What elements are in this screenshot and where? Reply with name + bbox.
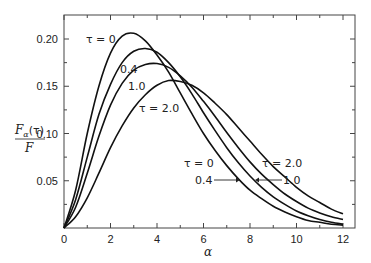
svg-text:8: 8	[247, 233, 253, 245]
y-axis-label: Fα(τ) F	[14, 123, 45, 155]
curves	[64, 33, 343, 228]
svg-text:0.15: 0.15	[37, 80, 58, 92]
annotation-04-right: 0.4	[195, 174, 213, 187]
line-chart: 0246810120.050.100.150.20 Fα(τ) F α τ = …	[0, 0, 371, 263]
annotation-tau0-left: τ = 0	[86, 33, 116, 46]
svg-text:Fα(τ): Fα(τ)	[14, 123, 44, 139]
svg-text:0.20: 0.20	[37, 33, 58, 45]
svg-text:6: 6	[200, 233, 206, 245]
annotation-tau2-left: τ = 2.0	[139, 102, 179, 115]
svg-text:10: 10	[290, 233, 302, 245]
annotation-arrows	[214, 178, 282, 183]
annotation-tau2-right: τ = 2.0	[262, 157, 302, 170]
x-axis-label: α	[204, 245, 212, 259]
svg-text:F: F	[24, 141, 34, 155]
svg-text:4: 4	[154, 233, 160, 245]
annotation-tau0-right: τ = 0	[184, 157, 214, 170]
svg-text:0.05: 0.05	[37, 175, 58, 187]
curve-series-0	[64, 33, 343, 228]
curve-series-1	[64, 48, 343, 228]
curve-series-2	[64, 63, 343, 228]
annotation-10-left: 1.0	[128, 80, 146, 93]
annotation-04-left: 0.4	[120, 63, 138, 76]
svg-text:2: 2	[107, 233, 113, 245]
svg-text:0: 0	[61, 233, 67, 245]
svg-text:12: 12	[337, 233, 349, 245]
annotation-10-right: 1.0	[283, 174, 301, 187]
